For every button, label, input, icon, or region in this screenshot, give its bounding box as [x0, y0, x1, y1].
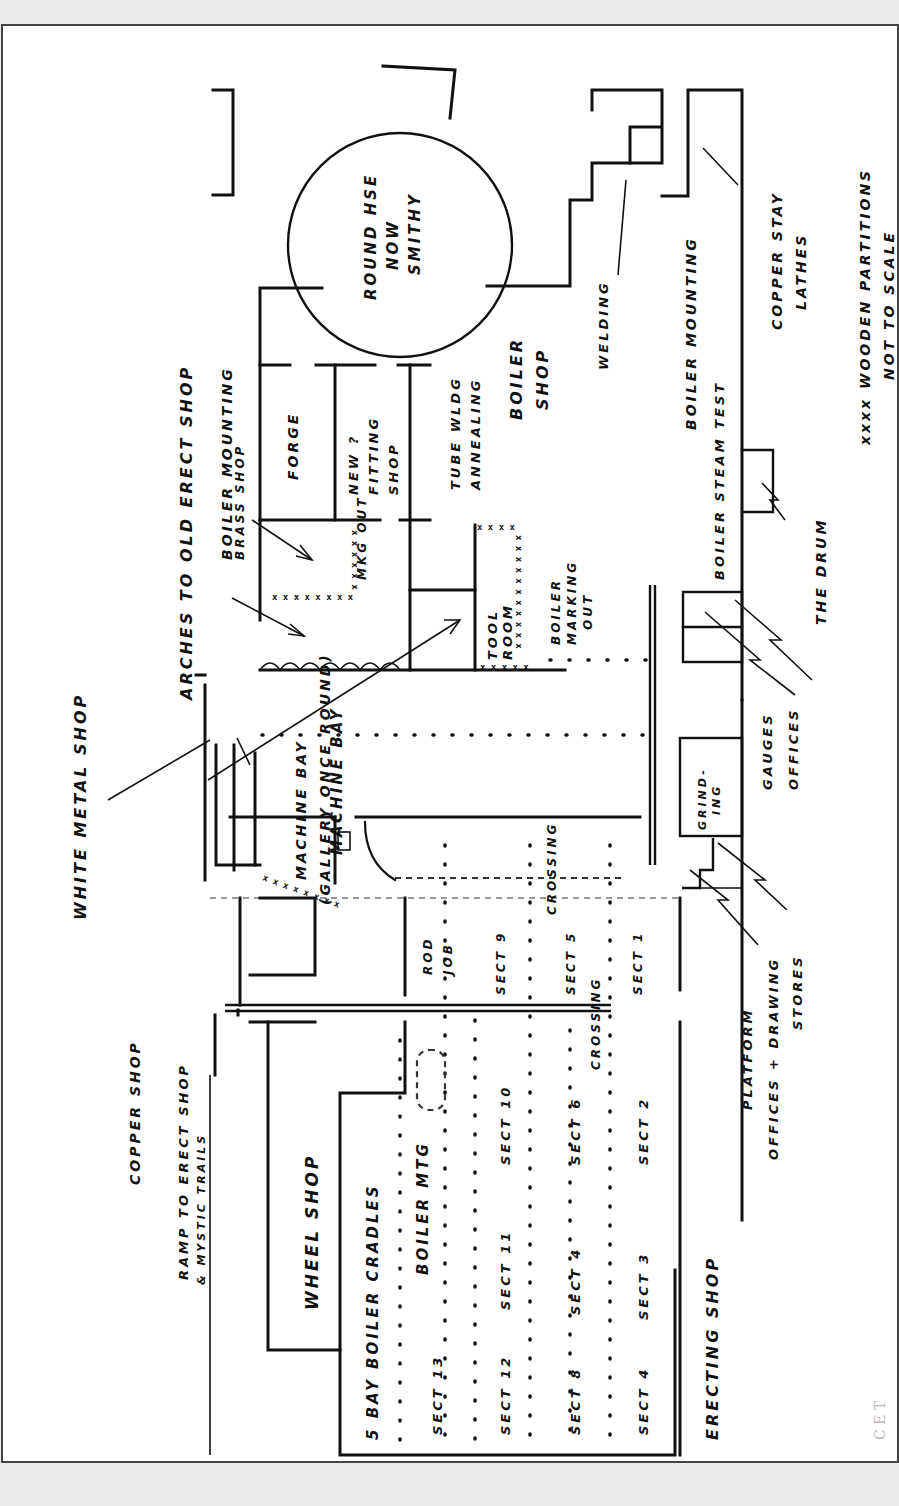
labels: ROUND HSE NOW SMITHY ARCHES TO OLD ERECT… — [71, 168, 897, 1440]
boiler-mtg-label: BOILER MTG — [414, 1141, 432, 1275]
sect-6-label: SECT 6 — [568, 1097, 583, 1165]
svg-text:x x x x x x x x: x x x x x x x x — [272, 592, 354, 602]
sect-11-label: SECT 11 — [498, 1230, 513, 1310]
svg-text:OFFICES: OFFICES — [786, 708, 801, 790]
svg-text:MARKING: MARKING — [565, 560, 579, 645]
svg-text:SHOP: SHOP — [386, 442, 401, 495]
boiler-mounting-right-label: BOILER MOUNTING — [683, 236, 699, 430]
sect-7-label: SECT 4 — [568, 1247, 583, 1315]
svg-text:x x x x x x x x x x x: x x x x x x x x x x x — [514, 535, 524, 649]
svg-text:x x x x: x x x x — [477, 522, 516, 532]
grinding-label: GRIND- — [696, 767, 709, 830]
svg-text:BRASS SHOP: BRASS SHOP — [233, 444, 247, 560]
platform-label: PLATFORM — [740, 1008, 755, 1110]
steam-test-label: BOILER STEAM TEST — [712, 381, 727, 580]
boiler-shop-label: BOILER — [507, 337, 526, 420]
svg-text:OUT: OUT — [581, 593, 595, 630]
erecting-shop-walls — [210, 898, 680, 1455]
legend-wooden-partitions: xxxx WOODEN PARTITIONS — [857, 168, 873, 446]
rod-job-label: ROD — [421, 937, 435, 975]
offices-drawing-label: OFFICES + DRAWING — [766, 957, 781, 1160]
tool-room-label: TOOL — [485, 609, 500, 660]
sect-5-label: SECT 5 — [564, 931, 578, 995]
sect-4-label: SECT 4 — [636, 1367, 651, 1435]
copper-shop-label: COPPER SHOP — [127, 1040, 143, 1185]
svg-text:LATHES: LATHES — [793, 233, 809, 310]
crossing-1-label: CROSSING — [545, 822, 559, 915]
svg-text:ING: ING — [710, 784, 723, 815]
sect-2-label: SECT 2 — [636, 1097, 651, 1165]
erecting-shop-label: ERECTING SHOP — [703, 1256, 722, 1440]
gauges-offices-label: GAUGES — [760, 712, 775, 790]
sect-13-label: SECT 13 — [430, 1355, 445, 1435]
mkg-out-label: MKG OUT — [355, 496, 369, 580]
sect-8-label: SECT 8 — [568, 1367, 583, 1435]
the-drum-label: THE DRUM — [813, 518, 829, 625]
machine-bay-2-label: MACHINE BAY — [293, 739, 309, 880]
white-metal-shop-label: WHITE METAL SHOP — [71, 693, 90, 920]
svg-text:ROOM: ROOM — [500, 603, 515, 660]
svg-text:JOB: JOB — [441, 942, 455, 977]
wheel-shop-label: WHEEL SHOP — [302, 1154, 322, 1310]
svg-text:x x x x x: x x x x x — [480, 662, 529, 672]
sect-1-label: SECT 1 — [631, 931, 645, 995]
svg-text:& MYSTIC TRAILS: & MYSTIC TRAILS — [195, 1133, 208, 1285]
round-house-label: ROUND HSE — [362, 173, 380, 300]
machine-bay-walls — [196, 675, 640, 883]
svg-text:SMITHY: SMITHY — [406, 192, 424, 275]
tube-welding-label: TUBE WLDG — [448, 376, 463, 490]
svg-text:NOW: NOW — [384, 219, 402, 270]
ramp-label: RAMP TO ERECT SHOP — [176, 1063, 191, 1280]
svg-text:FITTING: FITTING — [366, 416, 381, 495]
five-bay-cradles-label: 5 BAY BOILER CRADLES — [364, 1183, 382, 1440]
arches-label: ARCHES TO OLD ERECT SHOP — [177, 365, 196, 702]
welding-label: WELDING — [596, 280, 611, 370]
fitting-shop-label: NEW ? — [346, 434, 361, 495]
sect-10-label: SECT 10 — [498, 1085, 513, 1165]
rail-lines — [225, 585, 655, 1011]
svg-text:SHOP: SHOP — [533, 348, 552, 410]
svg-text:(GALLERY ONCE ROUND): (GALLERY ONCE ROUND) — [317, 652, 333, 905]
annotation-arrows — [108, 520, 460, 800]
legend-not-to-scale: NOT TO SCALE — [881, 230, 897, 380]
forge-label: FORGE — [285, 412, 301, 480]
sect-3-label: SECT 3 — [636, 1252, 651, 1320]
svg-text:ANNEALING: ANNEALING — [468, 378, 483, 491]
boiler-marking-out-label: BOILER — [549, 578, 563, 645]
svg-text:STORES: STORES — [790, 954, 805, 1030]
sect-9-label: SECT 9 — [494, 931, 508, 995]
caption-fragment: C E T — [872, 1400, 888, 1440]
floor-plan-drawing: x x x x x x x x x x x x x x x x x x x x … — [0, 0, 899, 1506]
copper-stay-label: COPPER STAY — [769, 191, 785, 330]
crossing-2-label: CROSSING — [589, 977, 603, 1070]
sect-12-label: SECT 12 — [498, 1355, 513, 1435]
